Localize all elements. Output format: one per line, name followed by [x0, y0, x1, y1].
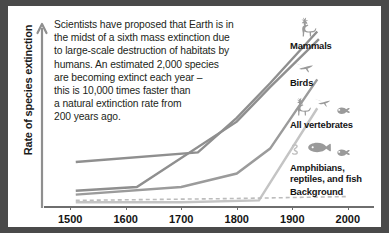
x-tick-label: 1900: [280, 213, 304, 225]
legend-icons-amphibians: [290, 140, 386, 162]
legend-label-amphibians-line2: reptiles, and fish: [290, 173, 386, 184]
legend-label-birds: Birds: [290, 77, 386, 88]
x-tick-mark: [292, 206, 293, 210]
frog-icon: [334, 103, 354, 117]
legend-label-all-vertebrates: All vertebrates: [290, 119, 386, 130]
x-tick-label: 1700: [169, 213, 193, 225]
frog-icon: [334, 145, 354, 159]
legend-icons-mammals: [290, 16, 386, 40]
x-tick-mark: [181, 206, 182, 210]
legend-item-mammals: Mammals: [290, 16, 386, 51]
description-line: are becoming extinct each year –: [54, 71, 240, 84]
description-line: the midst of a sixth mass extinction due: [54, 31, 240, 44]
y-axis-label: Rate of species extinction: [22, 24, 34, 156]
x-tick-label: 1500: [58, 213, 82, 225]
legend-item-background: Background: [290, 186, 386, 197]
fish-icon: [304, 140, 332, 155]
bird-icon: [292, 59, 322, 77]
x-axis-ticks: 150016001700180019002000: [44, 209, 374, 227]
x-axis-line: [44, 206, 374, 208]
x-tick-mark: [348, 206, 349, 210]
x-tick-label: 1800: [225, 213, 249, 225]
x-tick-label: 1600: [113, 213, 137, 225]
legend-item-all-vertebrates: All vertebrates: [290, 94, 386, 130]
legend-item-birds: Birds: [290, 59, 386, 88]
description-text: Scientists have proposed that Earth is i…: [54, 18, 240, 124]
description-line: Scientists have proposed that Earth is i…: [54, 18, 240, 31]
x-tick-mark: [126, 206, 127, 210]
legend-label-background: Background: [290, 186, 386, 197]
deer-icon: [294, 16, 324, 40]
legend-item-amphibians: Amphibians, reptiles, and fish: [290, 140, 386, 184]
legend-icons-birds: [290, 59, 386, 77]
description-line: a natural extinction rate from: [54, 97, 240, 110]
legend-label-amphibians-line1: Amphibians,: [290, 162, 386, 173]
description-line: to large-scale destruction of habitats b…: [54, 44, 240, 57]
x-tick-mark: [70, 206, 71, 210]
legend-icons-all-vertebrates: [290, 94, 386, 119]
description-line: this is 10,000 times faster than: [54, 84, 240, 97]
x-tick-label: 2000: [336, 213, 360, 225]
description-line: humans. An estimated 2,000 species: [54, 58, 240, 71]
legend-label-mammals: Mammals: [290, 40, 386, 51]
description-line: 200 years ago.: [54, 110, 240, 123]
chart-figure: Rate of species extinction Scientists ha…: [8, 6, 381, 227]
chart-legend: Mammals Birds All vert: [290, 16, 386, 206]
y-axis-arrow-icon: [36, 20, 48, 210]
x-tick-mark: [237, 206, 238, 210]
